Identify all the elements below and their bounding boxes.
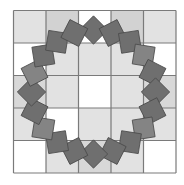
grid-cell <box>14 141 47 174</box>
grid-cell <box>111 76 144 109</box>
diagram-canvas <box>0 0 184 185</box>
grid-cell <box>144 141 177 174</box>
grid-cell <box>79 76 112 109</box>
grid-cell <box>144 11 177 44</box>
grid-cell <box>14 11 47 44</box>
tiling-diagram <box>0 0 184 185</box>
grid-cell <box>79 108 112 141</box>
grid-cell <box>46 76 79 109</box>
grid-cell <box>79 43 112 76</box>
